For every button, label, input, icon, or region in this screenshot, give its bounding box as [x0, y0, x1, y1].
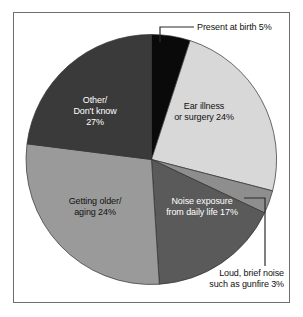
slice-label-getting-older: Getting older/ aging 24%: [45, 196, 145, 218]
slice-label-ear-illness: Ear illness or surgery 24%: [156, 101, 252, 123]
slice-label-present-at-birth-line1: Present at birth 5%: [197, 22, 272, 33]
slice-label-gunfire-line1: Loud, brief noise: [166, 268, 284, 279]
slice-label-ear-illness-line2: or surgery 24%: [156, 112, 252, 123]
slice-label-noise-exposure-line2: from daily life 17%: [147, 207, 257, 218]
slice-label-gunfire: Loud, brief noise such as gunfire 3%: [166, 268, 284, 290]
slice-label-gunfire-line2: such as gunfire 3%: [166, 279, 284, 290]
slice-label-other-line3: 27%: [47, 117, 143, 128]
slice-label-other-line2: Don't know: [47, 106, 143, 117]
slice-label-other-dont-know: Other/ Don't know 27%: [47, 95, 143, 128]
slice-label-present-at-birth: Present at birth 5%: [197, 22, 272, 33]
slice-label-noise-exposure: Noise exposure from daily life 17%: [147, 196, 257, 218]
slice-label-ear-illness-line1: Ear illness: [156, 101, 252, 112]
slice-label-noise-exposure-line1: Noise exposure: [147, 196, 257, 207]
chart-canvas: Present at birth 5% Ear illness or surge…: [0, 0, 303, 317]
slice-label-getting-older-line2: aging 24%: [45, 207, 145, 218]
slice-label-other-line1: Other/: [47, 95, 143, 106]
slice-label-getting-older-line1: Getting older/: [45, 196, 145, 207]
